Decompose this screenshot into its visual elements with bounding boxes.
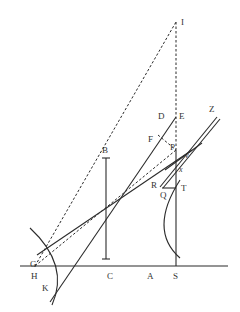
label-D: D [158, 111, 165, 121]
label-B: B [102, 145, 108, 155]
label-H: H [31, 271, 38, 281]
label-Z: Z [209, 104, 215, 114]
label-K: K [42, 283, 49, 293]
label-E: E [179, 111, 185, 121]
label-Q: Q [160, 190, 167, 200]
label-A: A [147, 271, 154, 281]
label-F: F [148, 134, 153, 144]
label-C: C [107, 271, 113, 281]
label-R: R [151, 180, 157, 190]
label-x: x [178, 165, 183, 174]
label-I: I [181, 17, 184, 27]
diagram-canvas: I E D Z F P v x R T Q B H C A S G K [0, 0, 240, 312]
label-G: G [30, 259, 37, 269]
label-S: S [173, 271, 178, 281]
label-v: v [185, 151, 189, 160]
label-T: T [181, 183, 187, 193]
label-P: P [170, 142, 175, 152]
